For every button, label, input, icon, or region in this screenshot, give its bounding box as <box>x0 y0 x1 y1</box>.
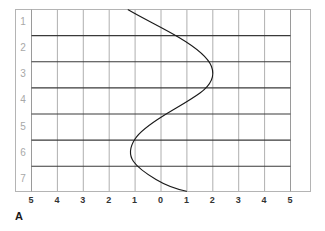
x-tick-label-0: 5 <box>28 193 33 207</box>
x-axis-tick-labels: 5 4 3 2 1 0 1 2 3 4 5 <box>31 193 290 207</box>
x-tick-label-1: 4 <box>54 193 59 207</box>
plot-border <box>16 10 311 192</box>
x-tick-label-5: 0 <box>158 193 163 207</box>
plot-area <box>15 9 311 192</box>
figure-container: 1 2 3 4 5 6 7 5 4 3 2 1 0 1 2 3 4 5 A <box>0 0 325 231</box>
x-tick-label-6: 1 <box>184 193 189 207</box>
x-tick-label-9: 4 <box>262 193 267 207</box>
figure-caption-label: A <box>15 211 23 222</box>
x-tick-label-3: 2 <box>106 193 111 207</box>
x-tick-label-7: 2 <box>210 193 215 207</box>
x-tick-label-8: 3 <box>236 193 241 207</box>
x-tick-label-2: 3 <box>80 193 85 207</box>
plot-canvas <box>15 9 311 192</box>
x-tick-label-4: 1 <box>132 193 137 207</box>
x-tick-label-10: 5 <box>287 193 292 207</box>
